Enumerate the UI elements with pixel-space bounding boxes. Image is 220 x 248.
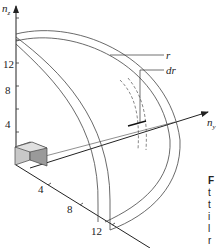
caption-fragment-2: t <box>208 200 211 210</box>
dr-label: dr <box>166 65 176 76</box>
dr-arrow <box>128 121 146 126</box>
caption-fragment-1: t <box>208 188 211 198</box>
nz-tick-4: 4 <box>5 119 11 130</box>
caption-fragment-0: F <box>208 176 214 186</box>
ny-axis-label: ny <box>207 117 216 131</box>
nz-axis-label: nz <box>2 3 10 17</box>
caption-fragment-4: l <box>208 224 210 234</box>
dr-leader <box>140 70 164 122</box>
nz-tick-12: 12 <box>3 59 14 70</box>
caption-fragment-5: r <box>208 236 211 246</box>
nx-tick-4: 4 <box>38 184 44 195</box>
ny-axis <box>30 112 208 168</box>
nz-tick-8: 8 <box>5 85 11 96</box>
nx-tick-12: 12 <box>91 226 102 237</box>
caption-fragment-3: i <box>208 212 210 222</box>
diagram-canvas <box>0 0 220 248</box>
r-label: r <box>166 50 170 61</box>
nx-tick-8: 8 <box>67 204 73 215</box>
unit-cube <box>15 142 47 166</box>
nx-axis <box>16 165 150 248</box>
spherical-shell <box>16 31 180 230</box>
